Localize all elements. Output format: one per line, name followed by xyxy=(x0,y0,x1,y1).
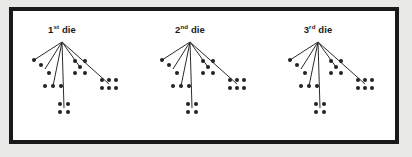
pip xyxy=(228,78,232,82)
pip xyxy=(206,65,210,69)
pip xyxy=(58,102,62,106)
pip xyxy=(51,84,55,88)
pip xyxy=(322,102,326,106)
die-label-3: 3rd die xyxy=(304,24,333,35)
pip xyxy=(370,78,374,82)
pip xyxy=(107,86,111,90)
pip xyxy=(314,102,318,106)
screenshot-canvas: 1st die2nd die3rd die xyxy=(0,0,412,157)
pip xyxy=(58,110,62,114)
pip xyxy=(363,86,367,90)
pip xyxy=(329,59,333,63)
pip xyxy=(339,71,343,75)
die-label-word: die xyxy=(188,24,205,35)
pip xyxy=(211,71,215,75)
die-label-1: 1st die xyxy=(48,24,76,35)
die-label-word: die xyxy=(316,24,333,35)
pip xyxy=(288,58,292,62)
diagram-overlay: 1st die2nd die3rd die xyxy=(0,0,412,157)
pip xyxy=(73,59,77,63)
die-label-word: die xyxy=(59,24,76,35)
pip xyxy=(187,84,191,88)
pip xyxy=(78,65,82,69)
pip xyxy=(39,63,43,67)
pip xyxy=(107,78,111,82)
pip xyxy=(339,59,343,63)
pip xyxy=(47,71,51,75)
pip xyxy=(100,86,104,90)
pip xyxy=(66,110,70,114)
pip xyxy=(235,86,239,90)
pip xyxy=(194,102,198,106)
pip xyxy=(160,58,164,62)
pip xyxy=(235,78,239,82)
pip xyxy=(299,84,303,88)
pip xyxy=(363,78,367,82)
pip xyxy=(186,110,190,114)
pip xyxy=(211,59,215,63)
pip xyxy=(303,71,307,75)
pip xyxy=(83,59,87,63)
pip xyxy=(242,78,246,82)
pip xyxy=(43,84,47,88)
pip xyxy=(66,102,70,106)
pip xyxy=(314,110,318,114)
pip xyxy=(179,84,183,88)
pip xyxy=(334,65,338,69)
pip xyxy=(194,110,198,114)
pip xyxy=(356,78,360,82)
pip xyxy=(171,84,175,88)
pip xyxy=(73,71,77,75)
pip xyxy=(186,102,190,106)
pip xyxy=(201,71,205,75)
pip xyxy=(201,59,205,63)
pip xyxy=(32,58,36,62)
pip xyxy=(315,84,319,88)
pip xyxy=(242,86,246,90)
pip xyxy=(100,78,104,82)
pip xyxy=(228,86,232,90)
pip xyxy=(329,71,333,75)
pip xyxy=(114,86,118,90)
pip xyxy=(114,78,118,82)
pip xyxy=(59,84,63,88)
pip xyxy=(370,86,374,90)
pip xyxy=(167,63,171,67)
pip xyxy=(307,84,311,88)
pip xyxy=(322,110,326,114)
pip xyxy=(356,86,360,90)
die-label-2: 2nd die xyxy=(175,24,205,35)
pip xyxy=(175,71,179,75)
pip xyxy=(83,71,87,75)
pip xyxy=(295,63,299,67)
die-ordinal-suffix: nd xyxy=(180,23,188,30)
